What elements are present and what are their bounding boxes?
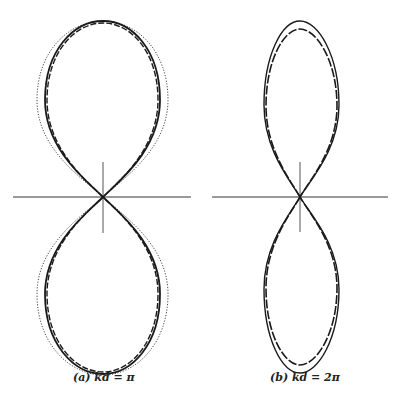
- panel-b-solid-curve-lower: [264, 197, 339, 373]
- panel-a-caption: (a) kd = π: [73, 371, 135, 384]
- radiation-pattern-figure: [0, 0, 401, 397]
- panel-b-dashed-curve-upper: [266, 29, 337, 197]
- panel-b-caption: (b) kd = 2π: [270, 371, 340, 384]
- panel-b-solid-curve-upper: [264, 21, 339, 197]
- panel-a: [13, 21, 191, 375]
- panel-b: [212, 21, 388, 373]
- panel-b-dashed-curve-lower: [266, 197, 337, 365]
